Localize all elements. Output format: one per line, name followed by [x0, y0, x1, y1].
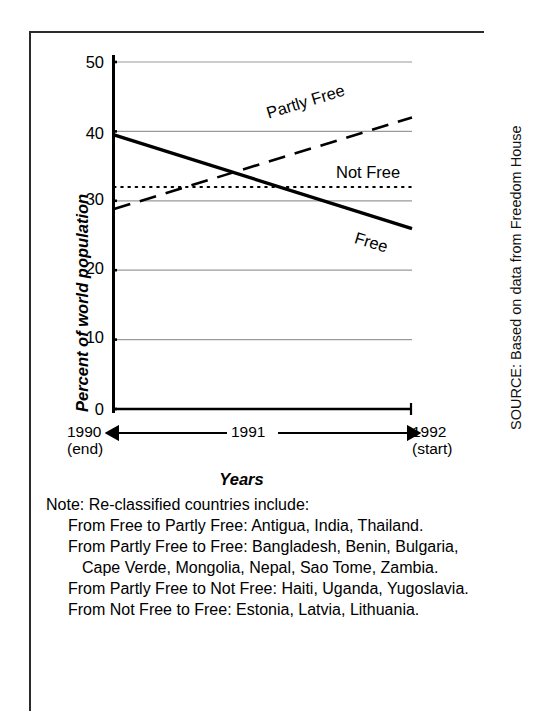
x-axis-middle-year: 1991 — [227, 424, 269, 440]
y-tick-label-40: 40 — [64, 125, 104, 142]
note-item: From Partly Free to Not Free: Haiti, Uga… — [46, 579, 486, 600]
y-tick-label-20: 20 — [64, 260, 104, 277]
x-axis-right-year-value: 1992 — [412, 423, 446, 440]
y-tick-label-30: 30 — [64, 191, 104, 208]
note-item: From Free to Partly Free: Antigua, India… — [46, 516, 486, 537]
series-label-not-free: Not Free — [334, 163, 402, 182]
x-axis-title: Years — [29, 470, 454, 489]
y-axis-title-text: Percent of world population — [74, 194, 91, 412]
note-heading: Note: Re-classified countries include: — [46, 495, 486, 516]
source-credit-text: SOURCE: Based on data from Freedom House — [509, 125, 524, 430]
x-axis-left-year: 1990 (end) — [67, 424, 103, 457]
x-axis-right-year-sub: (start) — [412, 441, 452, 458]
note-item: From Not Free to Free: Estonia, Latvia, … — [46, 600, 486, 621]
gridlines — [112, 62, 412, 340]
figure-frame-left-rule — [29, 31, 31, 711]
x-axis-year-annotations: 1990 (end) 1991 1992 (start) — [29, 424, 479, 470]
y-axis-title: Percent of world population — [52, 60, 78, 410]
figure-frame-top-rule — [29, 31, 484, 33]
y-tick-label-50: 50 — [64, 54, 104, 71]
note-block: Note: Re-classified countries include: F… — [46, 495, 486, 621]
x-axis-right-year: 1992 (start) — [412, 424, 452, 457]
plot-area: Partly Free Not Free Free — [112, 55, 412, 415]
figure-root: SOURCE: Based on data from Freedom House… — [0, 0, 533, 711]
x-axis-left-year-value: 1990 — [67, 423, 101, 440]
y-tick-label-10: 10 — [64, 329, 104, 346]
source-credit: SOURCE: Based on data from Freedom House — [496, 10, 522, 430]
y-axis-spine — [112, 55, 117, 413]
note-item: From Partly Free to Free: Bangladesh, Be… — [46, 537, 486, 579]
x-axis-left-year-sub: (end) — [67, 441, 103, 458]
y-tick-label-0: 0 — [64, 401, 104, 418]
